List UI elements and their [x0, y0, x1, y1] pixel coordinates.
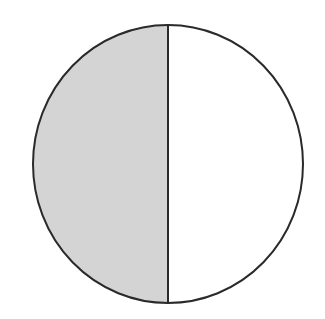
shaded-left-half: [33, 25, 168, 303]
fraction-circle-diagram: [0, 0, 325, 319]
unshaded-right-half: [168, 25, 303, 303]
